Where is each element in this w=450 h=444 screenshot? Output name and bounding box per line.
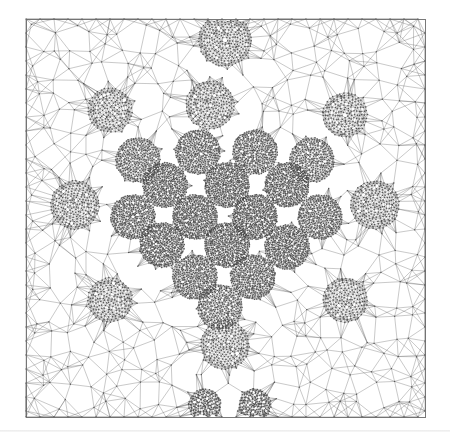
page-rule-divider (0, 430, 450, 432)
mesh-plot (0, 0, 450, 444)
